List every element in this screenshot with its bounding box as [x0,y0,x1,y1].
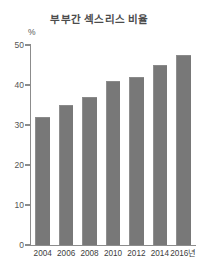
x-axis-line [30,245,196,246]
bar [106,81,121,245]
bar [176,55,191,245]
bar [153,65,168,245]
y-axis-tick-text: 10 [4,201,24,210]
x-axis-tick-label: 2016년 [169,250,197,258]
y-axis-tick-text: 50 [4,41,24,50]
y-axis-tick-text: 20 [4,161,24,170]
bar [59,105,74,245]
y-axis-tick-text: 30 [4,121,24,130]
y-axis-tick-text: 40 [4,81,24,90]
bar [129,77,144,245]
y-axis-tick-text: 0 [4,241,24,250]
bar [82,97,97,245]
sexless-rate-bar-chart: 부부간 섹스리스 비율 % 01020304050 20042006200820… [0,0,199,275]
y-axis-unit-label: % [28,28,36,37]
plot-area [31,45,195,245]
bar [35,117,50,245]
chart-title: 부부간 섹스리스 비율 [0,11,199,26]
